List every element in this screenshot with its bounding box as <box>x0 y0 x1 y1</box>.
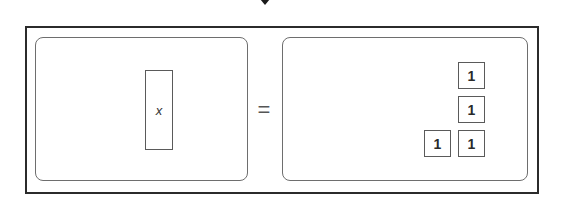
equals-sign: = <box>255 97 273 123</box>
unit-tile: 1 <box>424 130 451 157</box>
variable-tile-label: x <box>156 103 163 118</box>
variable-tile-x: x <box>145 70 173 150</box>
unit-tile: 1 <box>458 96 485 123</box>
right-side-panel <box>282 37 528 181</box>
unit-tile: 1 <box>458 62 485 89</box>
left-side-panel <box>35 37 248 181</box>
unit-tile: 1 <box>458 130 485 157</box>
arrow-down-icon <box>260 0 270 5</box>
unit-tile-label: 1 <box>468 68 476 84</box>
unit-tile-label: 1 <box>468 136 476 152</box>
unit-tile-label: 1 <box>434 136 442 152</box>
unit-tile-label: 1 <box>468 102 476 118</box>
